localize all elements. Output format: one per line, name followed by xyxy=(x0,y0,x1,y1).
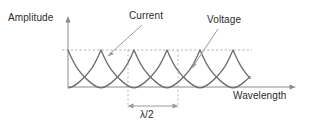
half-wavelength-dimension-label: λ/2 xyxy=(140,110,154,120)
standing-wave-figure: Amplitude Current Voltage Wavelength λ/2 xyxy=(0,0,315,130)
x-axis-arrowhead-icon xyxy=(290,84,297,89)
current-curve-label: Current xyxy=(129,11,163,21)
current-label-arrowhead-icon xyxy=(107,52,113,57)
voltage-label-leader-line xyxy=(194,29,218,65)
y-axis-label: Amplitude xyxy=(8,13,53,23)
voltage-curve-label: Voltage xyxy=(207,15,241,25)
x-axis-label: Wavelength xyxy=(233,91,286,101)
current-label-leader-line xyxy=(111,25,142,53)
y-axis-arrowhead-icon xyxy=(65,16,70,23)
